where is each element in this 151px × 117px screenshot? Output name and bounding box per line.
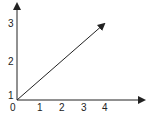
vector-arrow xyxy=(17,24,104,100)
y-tick-2: 2 xyxy=(8,57,14,67)
vector-diagram xyxy=(0,0,151,117)
x-tick-3: 3 xyxy=(81,103,87,113)
origin-label: 0 xyxy=(10,103,16,113)
y-tick-1: 1 xyxy=(8,91,14,101)
x-tick-4: 4 xyxy=(102,103,108,113)
y-tick-3: 3 xyxy=(8,19,14,29)
x-tick-1: 1 xyxy=(37,103,43,113)
x-tick-2: 2 xyxy=(59,103,65,113)
